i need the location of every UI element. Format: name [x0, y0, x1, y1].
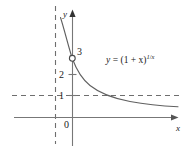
- x-axis-label: x: [176, 124, 180, 133]
- y-tick-label-1: 1: [59, 91, 64, 101]
- equation-label: y=(1 + x)1/x: [106, 56, 154, 66]
- discontinuity-point-label: 3: [77, 47, 82, 57]
- equation-body: (1 + x): [121, 55, 147, 65]
- equation-equals: =: [113, 55, 118, 65]
- y-tick-label-2: 2: [59, 70, 64, 80]
- open-circle-point-marker: [69, 55, 75, 61]
- origin-label: 0: [64, 120, 69, 130]
- equation-lhs: y: [106, 55, 110, 65]
- function-graph-figure: y x 0 2 1 3 y=(1 + x)1/x: [0, 0, 189, 149]
- y-axis-label: y: [63, 10, 67, 19]
- y-axis-arrow-icon: [69, 10, 75, 18]
- plot-canvas: [0, 0, 189, 149]
- x-axis-arrow-icon: [171, 114, 179, 120]
- equation-exponent-denominator: x: [152, 53, 155, 60]
- equation-exponent: 1/x: [147, 53, 155, 60]
